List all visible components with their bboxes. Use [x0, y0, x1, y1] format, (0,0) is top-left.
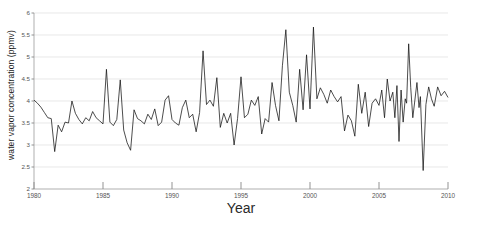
y-tick-label: 4.5 [21, 75, 30, 82]
y-tick-marks [32, 13, 35, 189]
x-tick-label: 1990 [165, 192, 180, 199]
y-tick-label: 6 [27, 9, 31, 16]
x-tick-marks [34, 182, 448, 189]
x-tick-label: 2005 [372, 192, 387, 199]
x-tick-label: 1995 [234, 192, 249, 199]
gridlines [34, 13, 448, 167]
y-tick-label: 5.5 [21, 31, 30, 38]
data-series-line [34, 27, 448, 170]
plot-svg: 22.533.544.555.56 1980198519901995200020… [0, 0, 479, 226]
x-tick-label: 1985 [96, 192, 111, 199]
x-axis-label-text: Year [227, 200, 255, 216]
y-tick-label: 3 [27, 141, 31, 148]
y-tick-label: 3.5 [21, 119, 30, 126]
x-tick-label: 1980 [27, 192, 42, 199]
y-tick-label: 5 [27, 53, 31, 60]
x-tick-label: 2010 [441, 192, 456, 199]
chart-figure: water vapor concentration (ppmv) 22.533.… [0, 0, 479, 226]
x-tick-label: 2000 [303, 192, 318, 199]
y-tick-label: 2.5 [21, 163, 30, 170]
y-tick-labels: 22.533.544.555.56 [21, 9, 30, 192]
y-tick-label: 4 [27, 97, 31, 104]
x-axis-label: Year [34, 200, 448, 216]
x-tick-labels: 1980198519901995200020052010 [27, 192, 456, 199]
